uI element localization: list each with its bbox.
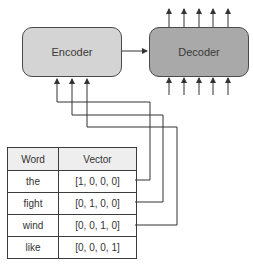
vector-cell: [0, 0, 0, 1]: [59, 237, 137, 259]
vector-cell: [0, 0, 1, 0]: [59, 215, 137, 237]
table-row: the [1, 0, 0, 0]: [8, 171, 137, 193]
encoder-label: Encoder: [52, 46, 93, 58]
header-word: Word: [8, 148, 59, 171]
header-vector: Vector: [59, 148, 137, 171]
word-cell: wind: [8, 215, 59, 237]
table-row: like [0, 0, 0, 1]: [8, 237, 137, 259]
word-cell: the: [8, 171, 59, 193]
encoder-block: Encoder: [22, 27, 122, 77]
word-cell: like: [8, 237, 59, 259]
vector-cell: [1, 0, 0, 0]: [59, 171, 137, 193]
word-cell: fight: [8, 193, 59, 215]
decoder-label: Decoder: [178, 46, 220, 58]
word-vector-table: Word Vector the [1, 0, 0, 0] fight [0, 1…: [7, 147, 137, 259]
decoder-block: Decoder: [149, 27, 249, 77]
table-row: wind [0, 0, 1, 0]: [8, 215, 137, 237]
table-row: fight [0, 1, 0, 0]: [8, 193, 137, 215]
vector-cell: [0, 1, 0, 0]: [59, 193, 137, 215]
table-header-row: Word Vector: [8, 148, 137, 171]
